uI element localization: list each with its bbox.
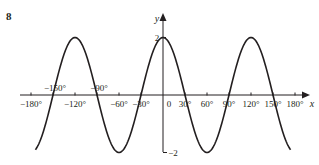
x-tick-label: 60° [201, 99, 214, 109]
x-axis-label: x [309, 98, 315, 109]
origin-label: 0 [167, 99, 172, 109]
x-tick-label: 150° [264, 99, 282, 109]
x-tick-label: 120° [242, 99, 260, 109]
x-tick-label: 30° [179, 99, 192, 109]
x-tick-label: −60° [110, 99, 128, 109]
y-axis-arrow-icon [160, 13, 167, 21]
x-tick-label: −30° [132, 99, 150, 109]
cosine-graph: −180°−120°−60°−30°30°60°90°120°150°180°−… [0, 0, 319, 165]
y-tick-label-min: −2 [168, 148, 178, 158]
x-tick-label: −180° [20, 99, 43, 109]
x-tick-label: −90° [90, 83, 108, 93]
x-tick-label: 180° [286, 99, 304, 109]
x-tick-label: 90° [223, 99, 236, 109]
y-axis-label: y [154, 13, 160, 24]
x-tick-label: −120° [64, 99, 87, 109]
